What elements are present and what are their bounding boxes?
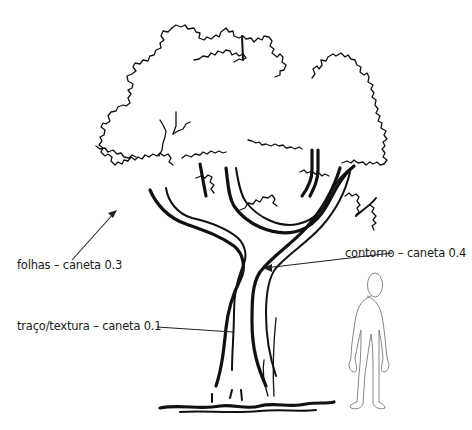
label-texture: traço/textura – caneta 0.1 bbox=[17, 321, 161, 333]
arrow-texture bbox=[157, 327, 233, 332]
trunk-outline bbox=[150, 150, 376, 396]
arrow-leaves bbox=[72, 212, 115, 260]
human-scale-figure bbox=[349, 273, 389, 409]
tree-drawing bbox=[0, 0, 472, 430]
canopy-leaves bbox=[96, 25, 387, 230]
label-leaves: folhas – caneta 0.3 bbox=[17, 260, 122, 272]
label-outline: contorno – caneta 0.4 bbox=[345, 248, 466, 260]
arrowhead-leaves bbox=[108, 210, 117, 218]
tree-pen-weight-diagram: folhas – caneta 0.3 contorno – caneta 0.… bbox=[0, 0, 472, 430]
ground-line bbox=[160, 390, 334, 412]
